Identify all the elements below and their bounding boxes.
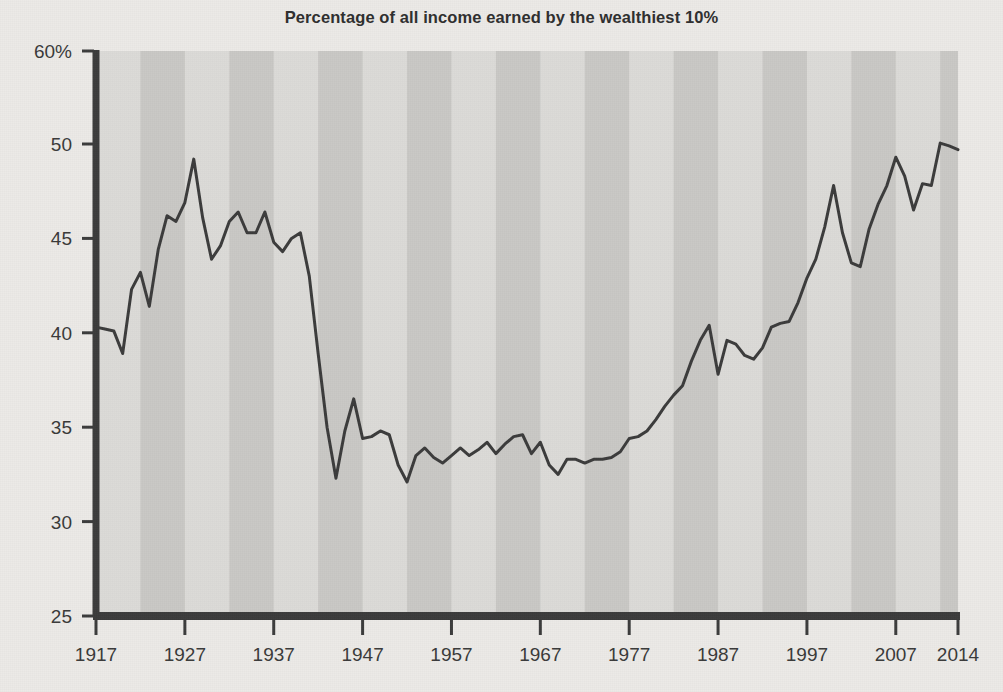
x-tick-label: 1937 <box>253 644 295 665</box>
x-tick-label: 1967 <box>519 644 561 665</box>
y-tick-label: 35 <box>51 417 72 438</box>
x-tick-label: 1917 <box>75 644 117 665</box>
y-tick-label: 50 <box>51 134 72 155</box>
x-tick-label: 1977 <box>608 644 650 665</box>
y-tick-label: 45 <box>51 228 72 249</box>
x-tick-label: 2014 <box>937 644 980 665</box>
y-tick-label: 60% <box>34 41 72 62</box>
x-tick-label: 1927 <box>164 644 206 665</box>
x-tick-label: 2007 <box>875 644 917 665</box>
background-bands <box>96 51 958 616</box>
x-tick-label: 1987 <box>697 644 739 665</box>
y-axis-tick-labels: 25303540455060% <box>34 41 72 627</box>
x-tick-label: 1957 <box>430 644 472 665</box>
x-tick-label: 1997 <box>786 644 828 665</box>
y-tick-label: 40 <box>51 323 72 344</box>
chart-figure: Percentage of all income earned by the w… <box>0 0 1003 692</box>
x-tick-label: 1947 <box>341 644 383 665</box>
chart-plot: 25303540455060% 191719271937194719571967… <box>0 0 1003 692</box>
x-axis-tick-labels: 1917192719371947195719671977198719972007… <box>75 644 980 665</box>
y-tick-label: 25 <box>51 606 72 627</box>
y-tick-label: 30 <box>51 512 72 533</box>
